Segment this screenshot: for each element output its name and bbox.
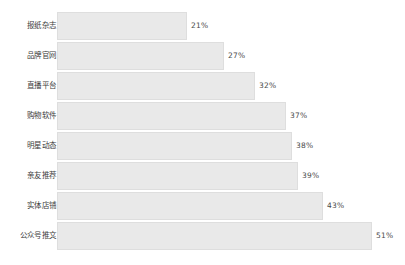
bar-row[interactable]: 明星动态 38% [0,132,405,160]
bar-row[interactable]: 品牌官网 27% [0,42,405,70]
axis-tick-3 [52,116,56,117]
bar-chart: 报纸杂志 21% 品牌官网 27% 直播平台 32% 购物软件 37% 明星动态 [0,0,405,265]
axis-tick-6 [52,206,56,207]
bar-value-label-6: 43% [327,202,344,210]
axis-tick-2 [52,86,56,87]
bar-value-label-1: 27% [228,52,245,60]
category-label-4: 明星动态 [0,142,56,150]
bar-value-label-5: 39% [302,172,319,180]
bar-1[interactable] [57,42,224,70]
bar-0[interactable] [57,12,187,40]
bar-row[interactable]: 实体店铺 43% [0,192,405,220]
axis-tick-7 [52,236,56,237]
bar-2[interactable] [57,72,255,100]
axis-tick-5 [52,176,56,177]
bar-row[interactable]: 直播平台 32% [0,72,405,100]
bar-row[interactable]: 公众号推文 51% [0,222,405,250]
category-label-7: 公众号推文 [0,232,56,240]
axis-tick-1 [52,56,56,57]
bar-5[interactable] [57,162,298,190]
bar-value-label-7: 51% [376,232,393,240]
plot-area: 报纸杂志 21% 品牌官网 27% 直播平台 32% 购物软件 37% 明星动态 [0,0,405,265]
bar-row[interactable]: 亲友推荐 39% [0,162,405,190]
axis-tick-4 [52,146,56,147]
axis-tick-0 [52,26,56,27]
bar-value-label-3: 37% [290,112,307,120]
category-label-0: 报纸杂志 [0,22,56,30]
category-label-5: 亲友推荐 [0,172,56,180]
bar-6[interactable] [57,192,323,220]
bar-row[interactable]: 报纸杂志 21% [0,12,405,40]
bar-value-label-2: 32% [259,82,276,90]
bar-3[interactable] [57,102,286,130]
category-label-2: 直播平台 [0,82,56,90]
bar-value-label-0: 21% [191,22,208,30]
bar-value-label-4: 38% [296,142,313,150]
bar-row[interactable]: 购物软件 37% [0,102,405,130]
bar-7[interactable] [57,222,372,250]
category-label-3: 购物软件 [0,112,56,120]
bar-4[interactable] [57,132,292,160]
category-label-1: 品牌官网 [0,52,56,60]
category-label-6: 实体店铺 [0,202,56,210]
